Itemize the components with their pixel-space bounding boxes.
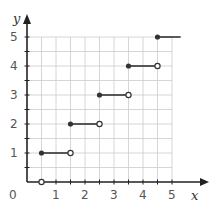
labels: y x	[12, 11, 199, 203]
x-tick-label: 2	[81, 188, 89, 202]
y-tick-label: 1	[10, 146, 18, 160]
x-tick-label: 3	[110, 188, 118, 202]
closed-point-icon	[97, 92, 102, 97]
closed-point-icon	[68, 121, 73, 126]
ticks: 01234512345	[9, 30, 176, 202]
y-tick-label: 4	[10, 59, 18, 73]
y-axis-label: y	[12, 11, 21, 26]
x-tick-label: 4	[139, 188, 147, 202]
closed-point-icon	[155, 34, 160, 39]
open-point-icon	[155, 63, 160, 68]
open-point-icon	[126, 92, 131, 97]
closed-point-icon	[39, 150, 44, 155]
axes	[23, 14, 209, 186]
x-tick-label: 1	[52, 188, 60, 202]
step-function-chart: 01234512345 y x	[0, 0, 213, 210]
x-axis-arrow-icon	[200, 178, 209, 186]
closed-point-icon	[126, 63, 131, 68]
y-tick-label: 5	[10, 30, 18, 44]
x-tick-label: 0	[9, 188, 17, 202]
y-tick-label: 3	[10, 88, 18, 102]
x-axis-label: x	[191, 188, 199, 203]
grid	[27, 37, 172, 182]
open-point-icon	[39, 179, 44, 184]
open-point-icon	[97, 121, 102, 126]
y-axis-arrow-icon	[23, 14, 31, 24]
y-tick-label: 2	[10, 117, 18, 131]
open-point-icon	[68, 150, 73, 155]
x-tick-label: 5	[168, 188, 176, 202]
